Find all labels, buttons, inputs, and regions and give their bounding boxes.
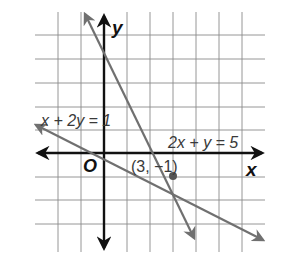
equation-label-line2: 2x + y = 5 <box>167 134 238 151</box>
grid <box>35 12 265 252</box>
y-axis-label: y <box>111 17 124 38</box>
intersection-label: (3, −1) <box>131 158 178 175</box>
coordinate-graph: y x O x + 2y = 1 2x + y = 5 (3, −1) <box>0 0 283 268</box>
equation-label-line1: x + 2y = 1 <box>40 112 111 129</box>
x-axis-label: x <box>245 159 258 180</box>
origin-label: O <box>83 156 97 176</box>
